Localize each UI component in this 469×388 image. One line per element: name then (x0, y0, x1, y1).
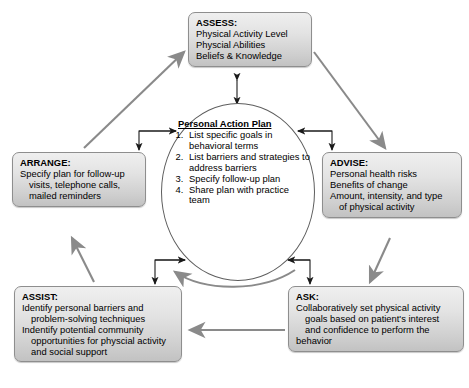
node-ask[interactable]: ASK: Collaboratively set physical activi… (288, 286, 464, 352)
personal-action-plan[interactable]: Personal Action Plan List specific goals… (170, 118, 310, 206)
pap-item: Share plan with practice team (186, 185, 310, 207)
pap-item: List barriers and strategies to address … (186, 152, 310, 174)
diagram-canvas: ASSESS: Physical Activity Level Physcial… (0, 0, 469, 388)
node-arrange[interactable]: ARRANGE: Specify plan for follow-up visi… (12, 152, 146, 207)
node-assess[interactable]: ASSESS: Physical Activity Level Physcial… (188, 12, 312, 67)
arrow-advise-to-ask (370, 238, 390, 282)
pap-list: List specific goals in behavioral terms … (170, 130, 310, 206)
assist-line-3: Indentify potential community (22, 325, 175, 336)
arrange-line-3: mailed reminders (20, 191, 139, 202)
pap-item: Specify follow-up plan (186, 174, 310, 185)
node-assist[interactable]: ASSIST: Identify personal barriers and p… (14, 286, 182, 362)
ask-line-3: and confidence to perform the (296, 325, 457, 336)
advise-line-3: Amount, intensity, and type (330, 191, 455, 202)
arrow-circle-to-assist (155, 260, 185, 284)
arrow-assess-to-advise (314, 52, 385, 148)
ask-line-4: behavior (296, 336, 457, 347)
node-advise[interactable]: ADVISE: Personal health risks Benefits o… (322, 152, 462, 218)
arrow-arrange-to-assess (84, 52, 184, 148)
arrow-assist-to-arrange (72, 238, 94, 282)
assess-line-3: Beliefs & Knowledge (196, 51, 305, 62)
pap-item: List specific goals in behavioral terms (186, 130, 310, 152)
assist-line-5: and social support (22, 347, 175, 358)
pap-title: Personal Action Plan (178, 118, 310, 129)
assist-line-4: opportunities for physcial activity (22, 336, 175, 347)
advise-line-4: of physical activity (330, 202, 455, 213)
